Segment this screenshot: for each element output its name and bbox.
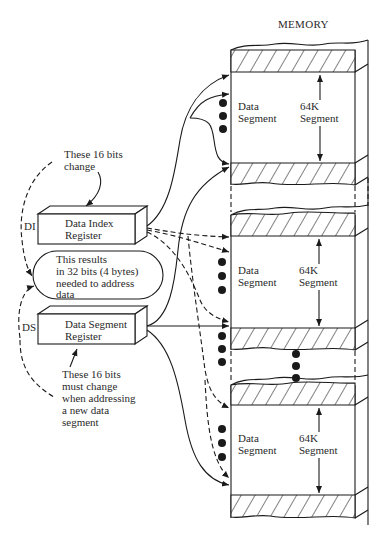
bottom-note: These 16 bits	[62, 368, 121, 380]
hatched-boundary	[231, 212, 355, 236]
segment-size-label: Segment	[299, 276, 338, 288]
data-segment-label: Segment	[238, 276, 277, 288]
bottom-note-arrow	[70, 349, 77, 367]
hatched-boundary	[231, 163, 355, 185]
ds-tag: DS	[22, 321, 36, 333]
segment-3-labels: Data Segment 64K Segment	[238, 408, 338, 493]
data-segment-label: Segment	[238, 444, 277, 456]
bottom-note: a new data	[62, 404, 109, 416]
bottom-note: must change	[62, 380, 117, 392]
bottom-note: when addressing	[62, 392, 136, 404]
top-note: change	[64, 160, 95, 172]
data-segment-label: Segment	[238, 112, 277, 124]
continuation-dot	[292, 362, 300, 370]
segment-2-labels: Data Segment 64K Segment	[238, 239, 338, 326]
data-segment-label: Data	[238, 264, 259, 276]
hatched-boundary	[231, 50, 355, 72]
data-segment-label: Data	[238, 100, 259, 112]
register-label: Register	[65, 229, 102, 241]
segment-size-label: 64K	[299, 432, 318, 444]
segmented-memory-diagram: MEMORY	[0, 0, 389, 534]
register-label: Data Segment	[65, 318, 127, 330]
segment-1-labels: Data Segment 64K Segment	[238, 75, 339, 161]
bottom-note: segment	[62, 416, 99, 428]
hatched-boundary	[231, 495, 355, 518]
continuation-dot	[292, 350, 300, 358]
middle-note: data	[56, 288, 74, 300]
segment-size-label: 64K	[300, 100, 319, 112]
register-label: Register	[65, 330, 102, 342]
memory-title: MEMORY	[278, 18, 329, 30]
data-index-register: Data Index Register	[38, 206, 147, 244]
segment-size-label: Segment	[299, 444, 338, 456]
hatched-boundary	[231, 382, 355, 405]
top-note: These 16 bits	[64, 148, 123, 160]
top-note-arrow	[86, 172, 101, 206]
wavy-top-edge	[231, 40, 368, 50]
middle-note: This results	[56, 253, 107, 265]
ds-dashed-curve	[20, 340, 54, 397]
data-segment-label: Data	[238, 432, 259, 444]
data-segment-register: Data Segment Register	[38, 306, 147, 344]
segment-size-label: Segment	[300, 112, 339, 124]
register-label: Data Index	[65, 217, 114, 229]
segment-size-label: 64K	[299, 264, 318, 276]
di-tag: DI	[24, 220, 36, 232]
hatched-boundary	[231, 328, 355, 350]
continuation-dot	[292, 374, 300, 382]
